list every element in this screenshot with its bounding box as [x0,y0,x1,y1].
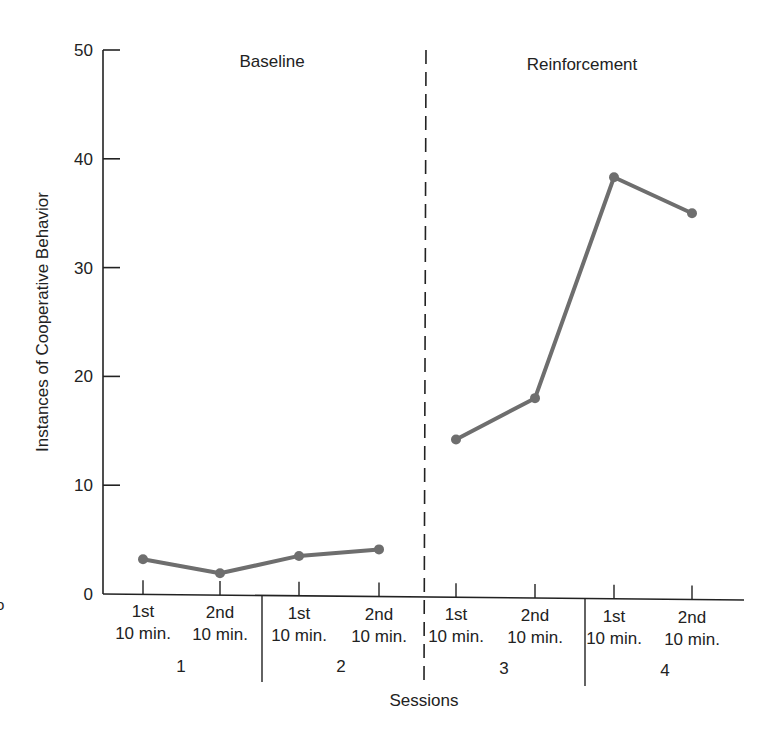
y-axis-title: Instances of Cooperative Behavior [33,192,52,452]
interval-label-line1: 1st [132,602,155,621]
data-series [138,172,697,578]
interval-label-line2: 10 min. [428,627,484,646]
y-tick-label: 50 [74,41,93,60]
y-ticks: 01020304050 [74,41,120,604]
data-point [530,393,540,403]
data-point [609,172,619,182]
phase-label-reinforcement: Reinforcement [527,55,638,74]
x-axis-title: Sessions [390,691,459,710]
data-point [374,544,384,554]
y-tick-label: 20 [74,367,93,386]
series-line-reinforcement [456,177,692,439]
interval-label-line1: 2nd [678,608,706,627]
phase-divider [424,50,426,682]
interval-label-line1: 2nd [521,606,549,625]
interval-label-line2: 10 min. [664,630,720,649]
y-tick-label: 30 [74,259,93,278]
interval-label-line2: 10 min. [586,629,642,648]
interval-label-line2: 10 min. [351,627,407,646]
data-point [138,554,148,564]
x-axis [103,594,744,600]
y-tick-label: 10 [74,476,93,495]
phase-label-baseline: Baseline [239,52,304,71]
y-tick-label: 0 [84,585,93,604]
interval-label-line1: 2nd [206,603,234,622]
session-label-1: 1 [176,657,185,676]
interval-label-line2: 10 min. [271,626,327,645]
interval-label-line1: 1st [445,605,468,624]
interval-label-line2: 10 min. [507,628,563,647]
session-label-2: 2 [336,657,345,676]
data-point [294,551,304,561]
series-line-baseline [143,549,379,573]
interval-label-line1: 2nd [365,605,393,624]
interval-label-line2: 10 min. [115,624,171,643]
interval-label-line1: 1st [288,604,311,623]
data-point [451,435,461,445]
line-chart: 01020304050 Instances of Cooperative Beh… [0,0,774,747]
edge-fragment: o [0,596,4,613]
interval-label-line2: 10 min. [192,625,248,644]
data-point [215,568,225,578]
session-label-3: 3 [499,659,508,678]
y-tick-label: 40 [74,150,93,169]
x-categories: 1st10 min.2nd10 min.1st10 min.2nd10 min.… [115,580,720,648]
session-label-4: 4 [660,661,669,680]
data-point [687,208,697,218]
interval-label-line1: 1st [603,607,626,626]
